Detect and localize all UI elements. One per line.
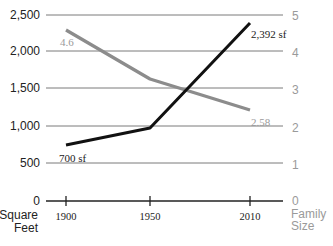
dual-axis-line-chart: 2,500 2,000 1,500 1,000 500 0 Square Fee… xyxy=(0,0,333,246)
left-tick: 1,500 xyxy=(10,81,40,95)
left-tick: 2,500 xyxy=(10,8,40,22)
right-tick: 4 xyxy=(292,46,299,60)
right-axis-ticks: 5 4 3 2 1 0 xyxy=(292,9,299,208)
x-tick-label: 2010 xyxy=(240,211,261,222)
left-tick: 2,000 xyxy=(10,44,40,58)
left-axis-title-line1: Square xyxy=(0,208,38,222)
annotation-family-2010: 2.58 xyxy=(251,116,271,128)
right-tick: 2 xyxy=(292,121,299,135)
series-family-size-line xyxy=(66,30,250,110)
x-tick-label: 1900 xyxy=(56,211,77,222)
right-axis-title-line2: Size xyxy=(291,219,315,233)
series-square-feet-line xyxy=(66,23,250,145)
x-tick-label: 1950 xyxy=(140,211,161,222)
annotation-family-1900: 4.6 xyxy=(60,36,74,48)
left-tick: 500 xyxy=(20,156,40,170)
right-tick: 3 xyxy=(292,83,299,97)
right-tick: 1 xyxy=(292,158,299,172)
left-axis-ticks: 2,500 2,000 1,500 1,000 500 0 xyxy=(10,8,40,208)
left-axis-title-line2: Feet xyxy=(14,221,39,235)
right-tick: 0 xyxy=(292,194,299,208)
right-tick: 5 xyxy=(292,9,299,23)
annotation-sqft-2010: 2,392 sf xyxy=(251,28,287,40)
annotation-sqft-1900: 700 sf xyxy=(59,152,87,164)
left-tick: 0 xyxy=(33,194,40,208)
left-tick: 1,000 xyxy=(10,119,40,133)
